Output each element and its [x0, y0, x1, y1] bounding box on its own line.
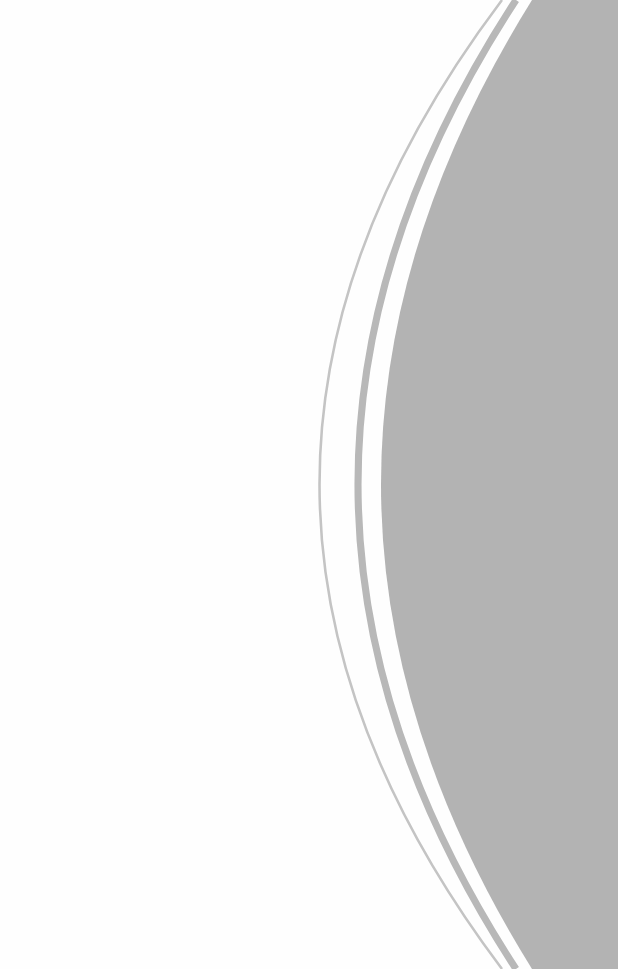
- gray-fill-region: [381, 0, 618, 969]
- curved-graphic: [0, 0, 618, 969]
- scanned-page: [0, 0, 618, 969]
